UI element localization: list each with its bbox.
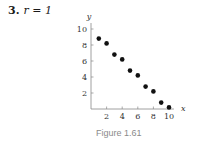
data-point — [120, 57, 125, 62]
data-point — [128, 68, 133, 73]
y-tick-label: 6 — [82, 57, 87, 66]
data-point — [104, 41, 109, 46]
y-tick-label: 4 — [82, 73, 87, 82]
data-point — [151, 89, 156, 94]
data-point — [167, 105, 172, 110]
y-axis-label: y — [86, 12, 92, 21]
data-point — [143, 84, 148, 89]
x-axis-label: x — [181, 104, 186, 113]
data-point — [159, 100, 164, 105]
x-tick-label: 4 — [120, 112, 125, 121]
data-point — [112, 52, 117, 57]
x-tick-label: 8 — [151, 112, 156, 121]
x-tick-label: 10 — [164, 112, 174, 121]
axes: 246810246810xy — [77, 12, 186, 121]
x-tick-label: 2 — [104, 112, 109, 121]
data-point — [97, 36, 102, 41]
y-tick-label: 10 — [77, 25, 87, 34]
y-tick-label: 2 — [82, 89, 87, 98]
x-tick-label: 6 — [135, 112, 140, 121]
data-points — [97, 36, 172, 109]
y-tick-label: 8 — [82, 41, 87, 50]
figure-caption: Figure 1.61 — [96, 128, 142, 138]
scatter-plot: 246810246810xy — [0, 0, 197, 144]
data-point — [136, 73, 141, 78]
